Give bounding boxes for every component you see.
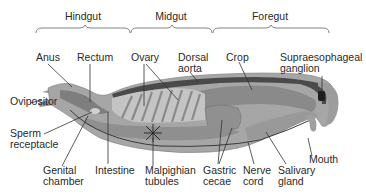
label-mouth: Mouth [309, 154, 338, 165]
region-braces [36, 25, 329, 33]
body [38, 73, 339, 153]
foregut-brace [213, 25, 329, 33]
leader-genital-chamber [62, 116, 88, 166]
label-malpighian-tubules: Malpighian tubules [145, 165, 196, 187]
hindgut-brace [36, 25, 130, 33]
label-salivary-gland: Salivary gland [278, 165, 315, 187]
label-sperm-receptacle: Sperm receptacle [10, 128, 58, 150]
label-intestine: Intestine [95, 165, 135, 176]
region-label-foregut: Foregut [252, 10, 288, 22]
label-dorsal-aorta: Dorsal aorta [178, 52, 208, 74]
label-ovary: Ovary [131, 52, 159, 63]
midgut-brace [131, 25, 212, 33]
label-genital-chamber: Genital chamber [43, 165, 84, 187]
leader-anus [48, 64, 72, 87]
region-label-midgut: Midgut [155, 10, 187, 22]
leader-salivary [266, 132, 286, 164]
label-rectum: Rectum [77, 52, 113, 63]
label-supraesophageal-ganglion: Supraesophageal ganglion [280, 52, 362, 74]
label-anus: Anus [36, 52, 60, 63]
insect-anatomy-diagram: Hindgut Midgut Foregut Anus Rectum Ovary… [0, 0, 366, 194]
supraesophageal-ganglion-shape [318, 91, 325, 101]
label-ovipositor: Ovipositor [10, 96, 57, 107]
label-gastric-cecae: Gastric cecae [203, 165, 236, 187]
sperm-receptacle-shape [90, 108, 100, 114]
leader-nerve-cord [248, 142, 254, 164]
region-label-hindgut: Hindgut [65, 10, 101, 22]
label-crop: Crop [226, 52, 249, 63]
label-nerve-cord: Nerve cord [243, 165, 271, 187]
